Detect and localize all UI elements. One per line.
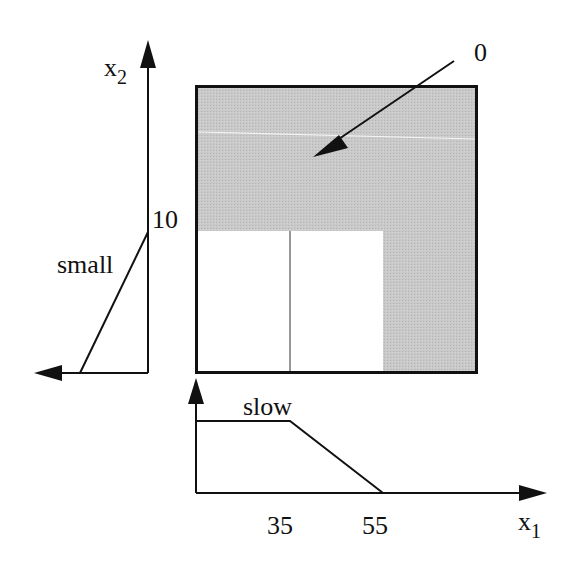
- callout-label: 0: [474, 38, 487, 67]
- x2-axis-label: x2: [104, 53, 127, 88]
- x1-tick-55: 55: [362, 511, 388, 540]
- x1-axis: slow 35 55 x1: [188, 378, 547, 542]
- membership-axis-left-arrowhead-icon: [34, 365, 62, 381]
- x2-axis-arrowhead-icon: [140, 40, 156, 68]
- diagram-canvas: 0 x2 10 small slow 35 55 x1: [0, 0, 585, 567]
- slow-membership-curve: [196, 421, 383, 493]
- small-label: small: [57, 250, 113, 279]
- membership-axis-up-arrowhead-icon: [188, 378, 204, 404]
- x2-tick-10: 10: [152, 205, 178, 234]
- x1-axis-label: x1: [518, 507, 541, 542]
- x1-tick-35: 35: [267, 511, 293, 540]
- small-membership: small: [34, 232, 148, 381]
- slow-label: slow: [243, 392, 292, 421]
- x1-axis-arrowhead-icon: [519, 485, 547, 501]
- rule-region-box: [197, 87, 477, 373]
- x2-axis: x2 10: [104, 40, 178, 373]
